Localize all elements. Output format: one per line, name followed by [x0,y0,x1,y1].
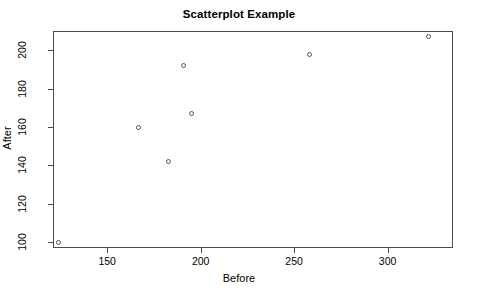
data-point [426,34,431,39]
data-point [56,240,61,245]
x-axis-tick [201,248,202,253]
x-axis-tick-label: 250 [274,255,314,267]
chart-title: Scatterplot Example [0,8,478,20]
data-point [181,63,186,68]
data-point [166,159,171,164]
x-axis-tick [107,248,108,253]
x-axis-tick [294,248,295,253]
data-point [307,52,312,57]
y-axis-tick [48,204,53,205]
data-point-layer [53,31,453,248]
y-axis-tick [48,127,53,128]
y-axis-tick [48,242,53,243]
x-axis-label: Before [0,272,478,284]
x-axis-tick-label: 300 [368,255,408,267]
x-axis-tick [388,248,389,253]
y-axis-tick [48,89,53,90]
scatterplot-figure: Scatterplot Example 150200250300 1001201… [0,0,478,295]
data-point [189,111,194,116]
y-axis-tick [48,165,53,166]
x-axis-tick-label: 200 [181,255,221,267]
y-axis-tick [48,50,53,51]
data-point [136,125,141,130]
y-axis-tick-label: 200 [16,27,30,73]
x-axis-tick-label: 150 [87,255,127,267]
y-axis-label: After [1,108,13,168]
